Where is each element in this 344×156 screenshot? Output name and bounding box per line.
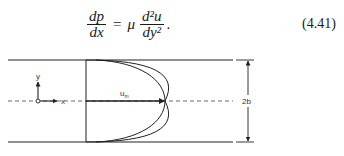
max-velocity-label: um xyxy=(120,89,129,99)
y-axis-label: y xyxy=(36,72,40,81)
x-axis-label: x xyxy=(61,97,65,106)
channel-width-label: 2b xyxy=(242,97,251,106)
origin-icon xyxy=(36,99,40,103)
channel-flow-diagram: um y x 2b xyxy=(0,0,344,156)
